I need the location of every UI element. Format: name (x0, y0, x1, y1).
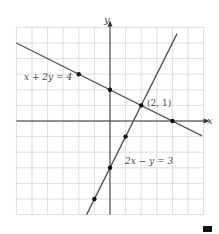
data-point (77, 72, 81, 76)
data-point (108, 88, 112, 92)
coordinate-plot: y x x + 2y = 4 2x − y = 3 (2, 1) (0, 0, 219, 234)
line2-equation-label: 2x − y = 3 (124, 156, 173, 166)
intersection-point (139, 103, 143, 107)
x-axis-label: x (207, 115, 213, 126)
graph-lines (16, 34, 202, 215)
line-2x-minus-y-equals-3 (87, 34, 177, 215)
line1-equation-label: x + 2y = 4 (24, 72, 72, 82)
data-point (108, 166, 112, 170)
end-of-example-mark (203, 226, 212, 232)
axes (16, 20, 209, 214)
data-point (123, 134, 127, 138)
intersection-label: (2, 1) (147, 98, 171, 108)
data-point (170, 119, 174, 123)
y-axis-label: y (103, 14, 110, 25)
data-point (92, 197, 96, 201)
